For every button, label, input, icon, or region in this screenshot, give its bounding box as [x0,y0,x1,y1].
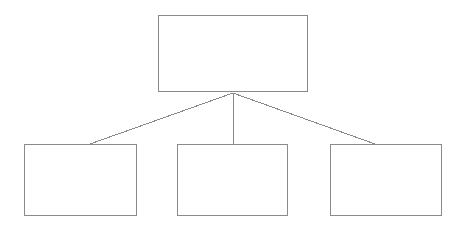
child-node-label-3 [331,145,441,215]
child-node-box-2[interactable] [177,144,288,216]
connector-line-3 [233,93,375,144]
parent-node-label [159,16,307,91]
parent-node-box[interactable] [158,15,308,92]
child-node-label-1 [25,145,136,215]
connector-line-1 [90,93,233,144]
diagram-canvas [0,0,463,229]
child-node-box-3[interactable] [330,144,442,216]
child-node-label-2 [178,145,287,215]
child-node-box-1[interactable] [24,144,137,216]
